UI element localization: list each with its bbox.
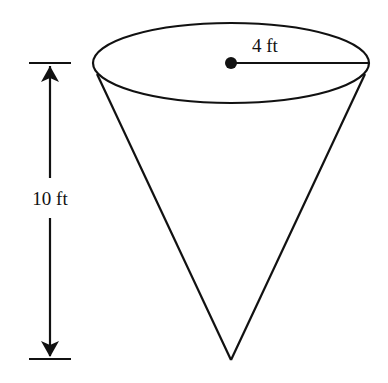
cone-left-side bbox=[97, 74, 231, 360]
center-point bbox=[225, 57, 237, 69]
cone-right-side bbox=[231, 74, 365, 360]
cone bbox=[93, 23, 369, 360]
height-label: 10 ft bbox=[32, 188, 68, 209]
height-dimension bbox=[29, 63, 71, 359]
cone-diagram: 4 ft 10 ft bbox=[0, 0, 388, 383]
radius-label: 4 ft bbox=[252, 35, 279, 56]
